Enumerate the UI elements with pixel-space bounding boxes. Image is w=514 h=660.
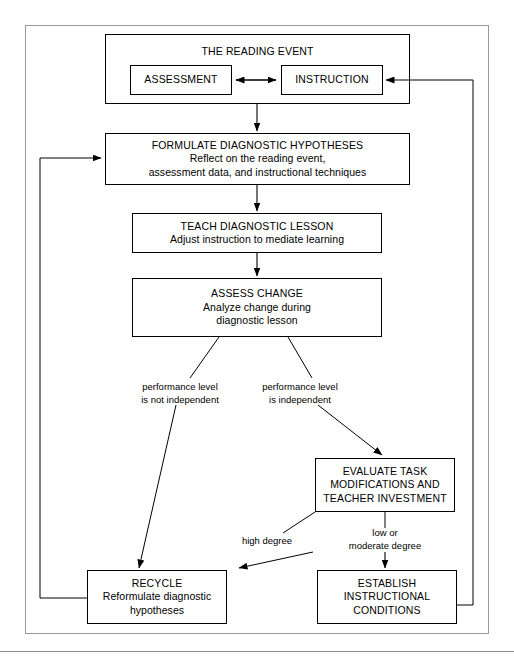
- node-recycle[interactable]: RECYCLE Reformulate diagnostic hypothese…: [87, 570, 227, 624]
- edge-recycle-to-formulate-feedback: [40, 158, 101, 598]
- node-instruction[interactable]: INSTRUCTION: [281, 65, 383, 95]
- node-assessment[interactable]: ASSESSMENT: [130, 65, 232, 95]
- edge-label-not-independent-line-2: is not independent: [120, 394, 240, 407]
- node-recycle-line-3: hypotheses: [130, 604, 184, 617]
- page-bottom-rule: [0, 651, 514, 652]
- node-evaluate-line-1: EVALUATE TASK: [343, 465, 428, 478]
- node-formulate-line-1: FORMULATE DIAGNOSTIC HYPOTHESES: [152, 139, 364, 152]
- edge-label-not-independent-line-1: performance level: [120, 381, 240, 394]
- node-evaluate-line-2: MODIFICATIONS AND: [330, 478, 440, 491]
- node-establish-line-1: ESTABLISH: [358, 577, 416, 590]
- edge-assess-change-branch-left: [190, 337, 219, 378]
- node-establish-instructional-conditions[interactable]: ESTABLISH INSTRUCTIONAL CONDITIONS: [317, 570, 457, 624]
- edge-independent-to-evaluate: [318, 405, 382, 455]
- edge-label-low-moderate-line-2: moderate degree: [331, 540, 439, 553]
- edge-label-high-degree-text: high degree: [222, 535, 312, 548]
- node-teach-line-2: Adjust instruction to mediate learning: [170, 233, 344, 246]
- edge-label-low-moderate-degree: low or moderate degree: [331, 527, 439, 552]
- node-formulate-diagnostic-hypotheses[interactable]: FORMULATE DIAGNOSTIC HYPOTHESES Reflect …: [105, 133, 410, 185]
- node-the-reading-event-label: THE READING EVENT: [201, 45, 313, 58]
- node-evaluate-line-3: TEACHER INVESTMENT: [323, 492, 446, 505]
- node-establish-line-3: CONDITIONS: [353, 604, 420, 617]
- node-formulate-line-2: Reflect on the reading event,: [190, 152, 326, 165]
- node-assess-change[interactable]: ASSESS CHANGE Analyze change during diag…: [132, 278, 382, 337]
- edge-evaluate-branch-high-degree: [283, 512, 315, 533]
- flowchart-diagram: THE READING EVENT ASSESSMENT INSTRUCTION…: [0, 0, 514, 660]
- node-teach-line-1: TEACH DIAGNOSTIC LESSON: [181, 220, 334, 233]
- node-recycle-line-1: RECYCLE: [132, 577, 183, 590]
- edge-assess-change-branch-right: [288, 337, 312, 378]
- node-assess-change-line-2: Analyze change during: [203, 301, 311, 314]
- edge-label-high-degree: high degree: [222, 535, 312, 548]
- node-assessment-label: ASSESSMENT: [144, 73, 217, 86]
- edge-label-performance-not-independent: performance level is not independent: [120, 381, 240, 406]
- edge-high-degree-to-recycle: [239, 552, 313, 568]
- node-teach-diagnostic-lesson[interactable]: TEACH DIAGNOSTIC LESSON Adjust instructi…: [132, 213, 382, 253]
- edge-label-independent-line-2: is independent: [240, 394, 360, 407]
- edge-label-performance-independent: performance level is independent: [240, 381, 360, 406]
- node-evaluate-task-modifications[interactable]: EVALUATE TASK MODIFICATIONS AND TEACHER …: [315, 458, 455, 512]
- node-formulate-line-3: assessment data, and instructional techn…: [149, 166, 367, 179]
- node-assess-change-line-3: diagnostic lesson: [216, 314, 297, 327]
- edge-label-independent-line-1: performance level: [240, 381, 360, 394]
- node-instruction-label: INSTRUCTION: [295, 73, 368, 86]
- node-assess-change-line-1: ASSESS CHANGE: [211, 287, 303, 300]
- node-establish-line-2: INSTRUCTIONAL: [344, 590, 431, 603]
- edge-label-low-moderate-line-1: low or: [331, 527, 439, 540]
- edge-not-independent-to-recycle: [139, 405, 176, 568]
- node-recycle-line-2: Reformulate diagnostic: [103, 590, 212, 603]
